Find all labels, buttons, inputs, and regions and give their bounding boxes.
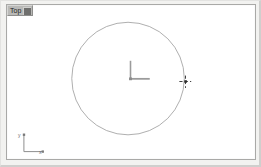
cursor-center-dot xyxy=(184,80,187,83)
application-frame: Top y x xyxy=(0,0,261,167)
viewport-menu-icon[interactable] xyxy=(23,7,31,15)
axis-tripod-y-cap xyxy=(23,134,25,136)
viewport-label-text: Top xyxy=(10,6,23,15)
gizmo-origin-handle[interactable] xyxy=(129,77,132,80)
axis-label-x: x xyxy=(39,150,42,155)
circle-spline[interactable] xyxy=(72,22,185,135)
axis-label-y: y xyxy=(18,133,21,138)
viewport-canvas[interactable] xyxy=(7,5,255,159)
crosshair-cursor xyxy=(179,76,191,88)
viewport-label[interactable]: Top xyxy=(7,5,33,16)
transform-gizmo[interactable] xyxy=(129,61,150,80)
top-viewport[interactable] xyxy=(6,4,256,160)
